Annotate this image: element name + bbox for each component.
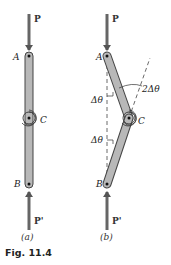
angle-arc-lower	[107, 140, 113, 144]
label-p-prime-a: P'	[34, 216, 44, 226]
label-b-b: B	[95, 179, 103, 189]
upper-bar	[107, 56, 129, 118]
label-dtheta-lower: Δθ	[90, 135, 103, 145]
label-a-b: A	[95, 52, 103, 62]
label-2dtheta: 2Δθ	[141, 84, 160, 94]
pin-a	[106, 55, 109, 58]
label-p-a: P	[34, 14, 41, 24]
spring-c-icon	[22, 110, 36, 126]
label-c-b: C	[138, 116, 145, 126]
pin-b	[28, 183, 31, 186]
label-b-a: B	[13, 179, 21, 189]
column-bar	[25, 52, 33, 188]
label-p-b: P	[112, 14, 119, 24]
panel-a-label: (a)	[21, 232, 34, 242]
pin-b	[106, 183, 109, 186]
panel-b-label: (b)	[100, 232, 113, 242]
label-a-a: A	[12, 52, 20, 62]
lower-bar	[107, 118, 129, 184]
label-c-a: C	[40, 115, 47, 125]
label-p-prime-b: P'	[112, 216, 122, 226]
figure-caption: Fig. 11.4	[5, 247, 52, 258]
angle-arc-upper	[107, 92, 113, 96]
figure-canvas: P A C B P' (a) P A 2Δθ Δθ C Δθ B P' (b)	[0, 0, 171, 265]
label-dtheta-upper: Δθ	[90, 95, 103, 105]
pin-a	[28, 55, 31, 58]
panel-a	[22, 14, 36, 230]
